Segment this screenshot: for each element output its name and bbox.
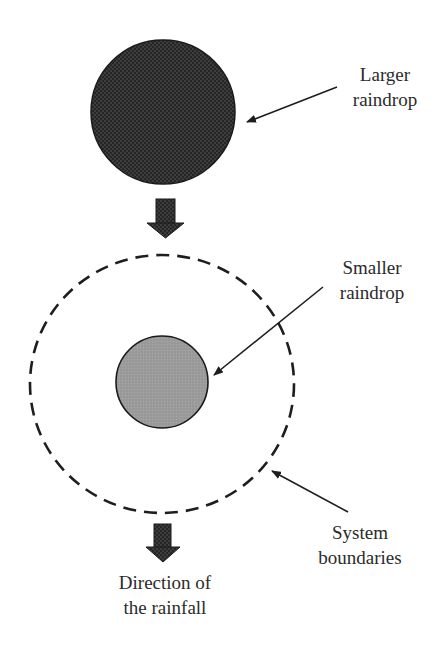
label-line: raindrop — [340, 87, 430, 112]
label-line: boundaries — [305, 545, 415, 570]
label-line: System — [305, 520, 415, 545]
label-line: the rainfall — [100, 595, 230, 620]
system-boundary-pointer — [272, 471, 348, 512]
rainfall-direction-arrow-icon — [146, 524, 180, 562]
down-arrow-icon — [147, 199, 184, 238]
label-line: Direction of — [100, 570, 230, 595]
larger-raindrop — [91, 40, 235, 184]
label-line: Larger — [340, 62, 430, 87]
label-smaller-raindrop: Smaller raindrop — [327, 255, 417, 305]
larger-raindrop-pointer — [247, 87, 337, 122]
label-larger-raindrop: Larger raindrop — [340, 62, 430, 112]
label-system-boundaries: System boundaries — [305, 520, 415, 570]
label-line: Smaller — [327, 255, 417, 280]
label-line: raindrop — [327, 280, 417, 305]
label-rainfall-direction: Direction of the rainfall — [100, 570, 230, 620]
smaller-raindrop-pointer — [214, 287, 323, 375]
smaller-raindrop — [116, 336, 208, 428]
